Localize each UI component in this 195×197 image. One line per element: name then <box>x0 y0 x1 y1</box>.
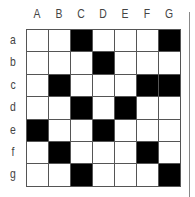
grid-cell-eD[interactable] <box>93 120 115 142</box>
grid-cell-gD[interactable] <box>93 164 115 186</box>
grid-cell-fG[interactable] <box>159 142 181 164</box>
grid-cell-aD[interactable] <box>93 30 115 52</box>
grid-cell-cB[interactable] <box>49 75 71 97</box>
grid-cell-bC[interactable] <box>71 52 93 74</box>
grid-cell-dD[interactable] <box>93 97 115 119</box>
grid-cell-fF[interactable] <box>137 142 159 164</box>
grid-cell-cE[interactable] <box>115 75 137 97</box>
grid-cell-eE[interactable] <box>115 120 137 142</box>
grid-cell-aF[interactable] <box>137 30 159 52</box>
row-label: b <box>7 51 18 73</box>
grid-cell-gC[interactable] <box>71 164 93 186</box>
grid-cell-fC[interactable] <box>71 142 93 164</box>
grid-cell-eC[interactable] <box>71 120 93 142</box>
grid-cell-bA[interactable] <box>27 52 49 74</box>
column-labels: A B C D E F G <box>26 6 180 21</box>
grid-cell-gF[interactable] <box>137 164 159 186</box>
column-label: G <box>160 6 178 21</box>
grid-cell-cF[interactable] <box>137 75 159 97</box>
row-label: f <box>7 141 18 163</box>
grid-cell-fD[interactable] <box>93 142 115 164</box>
grid-cell-aG[interactable] <box>159 30 181 52</box>
column-label: F <box>138 6 156 21</box>
grid-cell-gB[interactable] <box>49 164 71 186</box>
grid-cell-dE[interactable] <box>115 97 137 119</box>
grid-cell-bB[interactable] <box>49 52 71 74</box>
grid-cell-eB[interactable] <box>49 120 71 142</box>
grid-cell-aE[interactable] <box>115 30 137 52</box>
grid-cell-gA[interactable] <box>27 164 49 186</box>
grid-cell-aA[interactable] <box>27 30 49 52</box>
row-label: e <box>7 119 18 141</box>
grid-cell-bF[interactable] <box>137 52 159 74</box>
grid-cell-dC[interactable] <box>71 97 93 119</box>
grid-cell-fA[interactable] <box>27 142 49 164</box>
row-label: g <box>7 163 18 185</box>
grid-cell-dB[interactable] <box>49 97 71 119</box>
grid-cell-cD[interactable] <box>93 75 115 97</box>
grid-cell-dF[interactable] <box>137 97 159 119</box>
row-labels: a b c d e f g <box>6 29 20 186</box>
grid-cell-dG[interactable] <box>159 97 181 119</box>
grid-cell-bD[interactable] <box>93 52 115 74</box>
row-label: d <box>7 96 18 118</box>
grid-cell-cC[interactable] <box>71 75 93 97</box>
grid-cell-aC[interactable] <box>71 30 93 52</box>
grid-cell-gG[interactable] <box>159 164 181 186</box>
grid-cell-eA[interactable] <box>27 120 49 142</box>
grid-cell-eG[interactable] <box>159 120 181 142</box>
column-label: D <box>94 6 112 21</box>
grid-cell-dA[interactable] <box>27 97 49 119</box>
divider-line <box>189 12 190 197</box>
game-grid <box>26 29 181 187</box>
grid-cell-bG[interactable] <box>159 52 181 74</box>
column-label: B <box>50 6 68 21</box>
grid-cell-aB[interactable] <box>49 30 71 52</box>
grid-cell-cA[interactable] <box>27 75 49 97</box>
grid-cell-cG[interactable] <box>159 75 181 97</box>
grid-cell-gE[interactable] <box>115 164 137 186</box>
column-label: C <box>72 6 90 21</box>
column-label: A <box>28 6 46 21</box>
grid-cell-bE[interactable] <box>115 52 137 74</box>
row-label: c <box>7 74 18 96</box>
grid-cell-fB[interactable] <box>49 142 71 164</box>
row-label: a <box>7 29 18 51</box>
grid-cell-eF[interactable] <box>137 120 159 142</box>
column-label: E <box>116 6 134 21</box>
grid-cell-fE[interactable] <box>115 142 137 164</box>
